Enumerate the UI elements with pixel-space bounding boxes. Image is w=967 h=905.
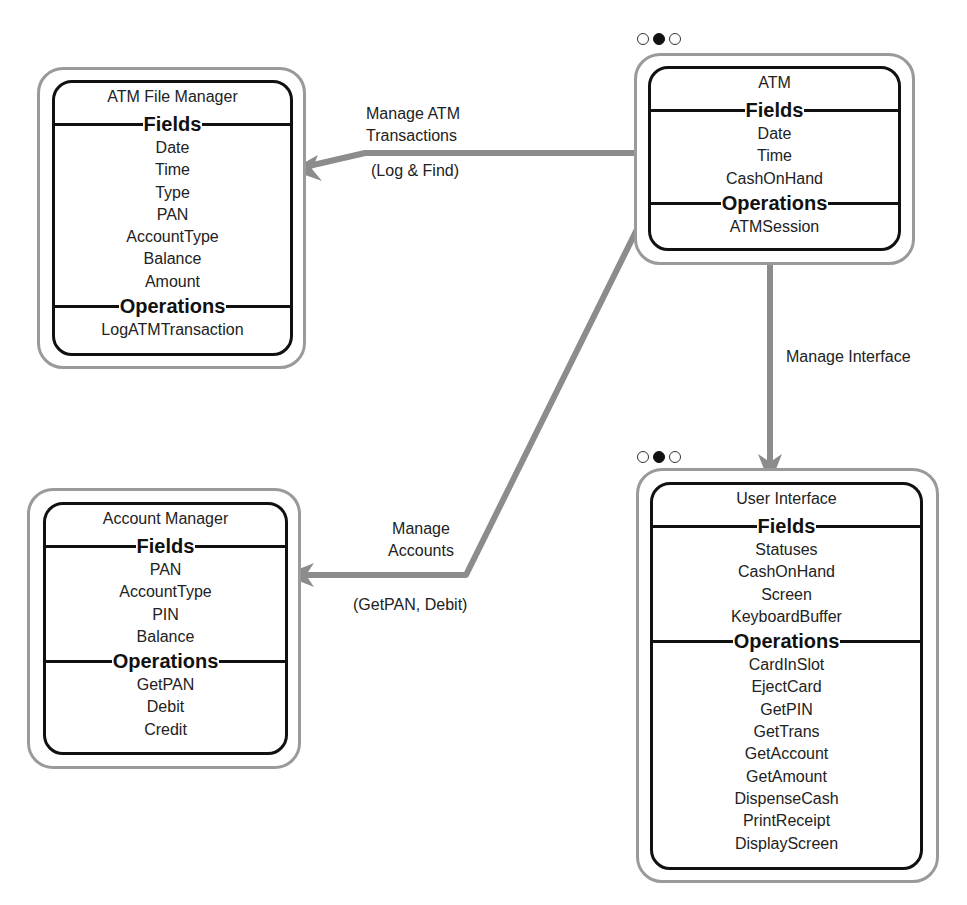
fields-label: Fields — [136, 533, 196, 559]
field-item: Type — [55, 182, 290, 204]
connector-sublabel-getpan-debit: (GetPAN, Debit) — [353, 594, 467, 616]
object-account-manager[interactable]: Account Manager Fields PAN AccountType P… — [43, 502, 288, 755]
operation-item: EjectCard — [653, 676, 920, 698]
field-item: Screen — [653, 584, 920, 606]
operation-item: Debit — [46, 696, 285, 718]
object-user-interface[interactable]: User Interface Fields Statuses CashOnHan… — [650, 482, 923, 870]
fields-list: Date Time CashOnHand — [651, 123, 898, 190]
field-item: Statuses — [653, 539, 920, 561]
label-line: Transactions — [366, 125, 460, 147]
object-atm-file-manager[interactable]: ATM File Manager Fields Date Time Type P… — [52, 80, 293, 356]
operations-header: Operations — [651, 190, 898, 216]
field-item: KeyboardBuffer — [653, 606, 920, 628]
connector-label-manage-atm-transactions: Manage ATM Transactions — [366, 103, 460, 147]
operation-item: CardInSlot — [653, 654, 920, 676]
filled-circle-icon — [653, 33, 665, 45]
operations-label: Operations — [119, 293, 227, 319]
operations-header: Operations — [653, 628, 920, 654]
diagram-canvas: ATM File Manager Fields Date Time Type P… — [0, 0, 967, 905]
empty-circle-icon — [669, 33, 681, 45]
operation-item: GetTrans — [653, 721, 920, 743]
fields-list: Statuses CashOnHand Screen KeyboardBuffe… — [653, 539, 920, 628]
field-item: CashOnHand — [651, 168, 898, 190]
object-title: User Interface — [653, 485, 920, 513]
operation-item: Credit — [46, 719, 285, 741]
object-title: ATM File Manager — [55, 83, 290, 111]
fields-label: Fields — [143, 111, 203, 137]
operation-item: DispenseCash — [653, 788, 920, 810]
field-item: Balance — [46, 626, 285, 648]
empty-circle-icon — [637, 33, 649, 45]
fields-label: Fields — [745, 97, 805, 123]
operation-item: GetPAN — [46, 674, 285, 696]
operations-list: LogATMTransaction — [55, 319, 290, 341]
field-item: PAN — [46, 559, 285, 581]
field-item: AccountType — [46, 581, 285, 603]
empty-circle-icon — [637, 451, 649, 463]
fields-header: Fields — [55, 111, 290, 137]
connector-atm-to-account-manager[interactable] — [284, 207, 648, 587]
object-title: Account Manager — [46, 505, 285, 533]
field-item: Date — [55, 137, 290, 159]
field-item: PIN — [46, 604, 285, 626]
operation-item: GetAmount — [653, 766, 920, 788]
field-item: Time — [55, 159, 290, 181]
label-line: Accounts — [376, 540, 466, 562]
operations-header: Operations — [55, 293, 290, 319]
fields-header: Fields — [651, 97, 898, 123]
field-item: CashOnHand — [653, 561, 920, 583]
empty-circle-icon — [669, 451, 681, 463]
operation-item: LogATMTransaction — [55, 319, 290, 341]
operations-label: Operations — [721, 190, 829, 216]
field-item: Amount — [55, 271, 290, 293]
operation-item: DisplayScreen — [653, 833, 920, 855]
field-item: Date — [651, 123, 898, 145]
operations-list: ATMSession — [651, 216, 898, 238]
operation-item: GetAccount — [653, 743, 920, 765]
fields-label: Fields — [757, 513, 817, 539]
field-item: AccountType — [55, 226, 290, 248]
operations-header: Operations — [46, 648, 285, 674]
operation-item: ATMSession — [651, 216, 898, 238]
operations-list: GetPAN Debit Credit — [46, 674, 285, 741]
connector-atm-to-user-interface[interactable] — [758, 252, 782, 484]
operations-label: Operations — [733, 628, 841, 654]
fields-header: Fields — [46, 533, 285, 559]
field-item: PAN — [55, 204, 290, 226]
fields-header: Fields — [653, 513, 920, 539]
operation-item: PrintReceipt — [653, 810, 920, 832]
object-atm[interactable]: ATM Fields Date Time CashOnHand Operatio… — [648, 66, 901, 251]
label-line: Manage — [376, 518, 466, 540]
connector-sublabel-log-find: (Log & Find) — [371, 160, 459, 182]
operation-item: GetPIN — [653, 699, 920, 721]
object-title: ATM — [651, 69, 898, 97]
connector-label-manage-accounts: Manage Accounts — [376, 518, 466, 562]
connector-atm-to-file-manager[interactable] — [291, 153, 649, 181]
state-indicator — [637, 451, 681, 463]
state-indicator — [637, 33, 681, 45]
field-item: Balance — [55, 248, 290, 270]
fields-list: Date Time Type PAN AccountType Balance A… — [55, 137, 290, 293]
connector-label-manage-interface: Manage Interface — [786, 346, 911, 368]
field-item: Time — [651, 145, 898, 167]
operations-label: Operations — [112, 648, 220, 674]
label-line: Manage ATM — [366, 103, 460, 125]
filled-circle-icon — [653, 451, 665, 463]
fields-list: PAN AccountType PIN Balance — [46, 559, 285, 648]
operations-list: CardInSlot EjectCard GetPIN GetTrans Get… — [653, 654, 920, 855]
